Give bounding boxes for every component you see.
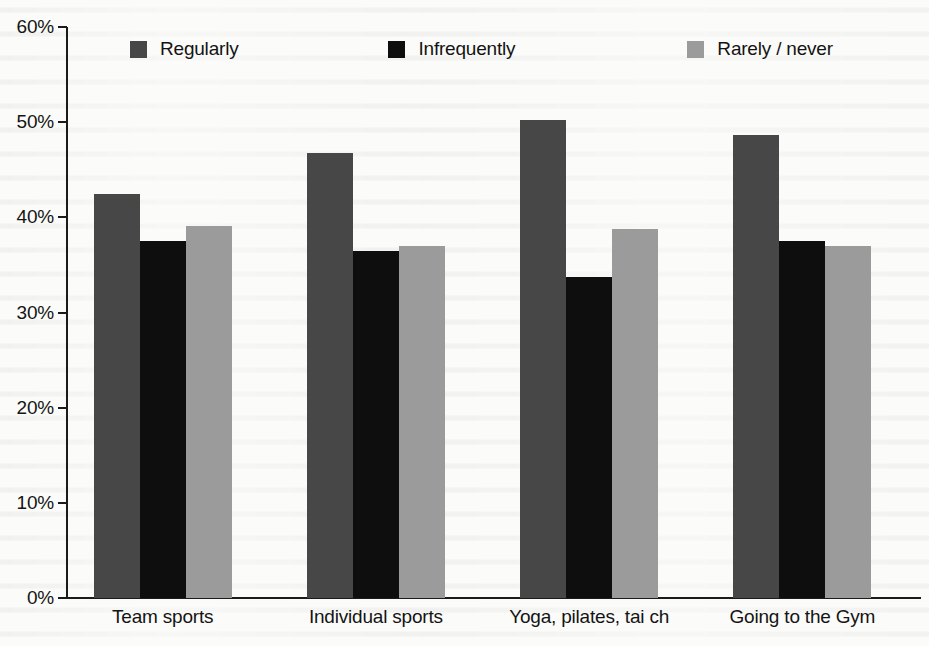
x-axis-category-label: Going to the Gym bbox=[730, 606, 876, 628]
y-axis-tick-labels: 0%10%20%30%40%50%60% bbox=[0, 0, 54, 646]
legend-item: Regularly bbox=[130, 38, 238, 60]
bar-group bbox=[94, 27, 232, 598]
bar bbox=[140, 241, 186, 598]
y-axis-tick-label: 50% bbox=[17, 111, 54, 133]
legend-label: Rarely / never bbox=[717, 38, 832, 60]
bar bbox=[353, 251, 399, 598]
bar-group bbox=[307, 27, 445, 598]
x-axis-category-label: Team sports bbox=[112, 606, 213, 628]
legend-item: Rarely / never bbox=[687, 38, 832, 60]
legend-swatch-icon bbox=[687, 41, 704, 58]
bar bbox=[399, 246, 445, 598]
x-axis-category-label: Yoga, pilates, tai ch bbox=[509, 606, 669, 628]
bar-group bbox=[520, 27, 658, 598]
y-axis-tick-label: 20% bbox=[17, 397, 54, 419]
bar-group bbox=[733, 27, 871, 598]
bar bbox=[825, 246, 871, 598]
bar bbox=[733, 135, 779, 598]
y-axis-tick-label: 60% bbox=[17, 16, 54, 38]
plot-area bbox=[68, 27, 921, 598]
legend-label: Regularly bbox=[160, 38, 238, 60]
legend-swatch-icon bbox=[130, 41, 147, 58]
bar bbox=[186, 226, 232, 598]
y-axis-tick-label: 0% bbox=[27, 587, 54, 609]
grouped-bar-chart: 0%10%20%30%40%50%60% Team sportsIndividu… bbox=[0, 0, 929, 646]
legend-item: Infrequently bbox=[388, 38, 515, 60]
bar bbox=[612, 229, 658, 598]
chart-legend: RegularlyInfrequentlyRarely / never bbox=[130, 38, 833, 60]
y-axis-tick-label: 10% bbox=[17, 492, 54, 514]
bar bbox=[94, 194, 140, 598]
y-axis-tick-label: 30% bbox=[17, 302, 54, 324]
legend-label: Infrequently bbox=[418, 38, 515, 60]
bar bbox=[307, 153, 353, 598]
legend-swatch-icon bbox=[388, 41, 405, 58]
bar bbox=[566, 277, 612, 598]
bar bbox=[520, 120, 566, 598]
bar bbox=[779, 241, 825, 598]
y-axis-tick-label: 40% bbox=[17, 206, 54, 228]
x-axis-category-label: Individual sports bbox=[309, 606, 443, 628]
